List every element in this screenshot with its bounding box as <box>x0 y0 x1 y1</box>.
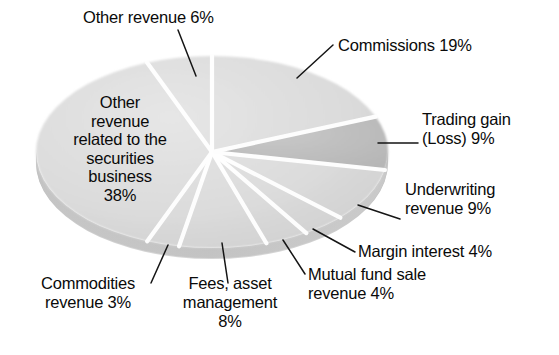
pie-chart-page: Other revenue related to the securities … <box>0 0 559 355</box>
slice-label-margin-interest: Margin interest 4% <box>358 242 558 261</box>
leader-underwriting <box>358 205 400 219</box>
leader-margin-interest <box>313 229 355 252</box>
slice-label-mutual-fund-sale: Mutual fund sale revenue 4% <box>308 265 478 303</box>
slice-label-underwriting-revenue: Underwriting revenue 9% <box>405 180 559 218</box>
slice-label-other-revenue-securities: Other revenue related to the securities … <box>44 93 196 204</box>
slice-label-fees-asset-management: Fees, asset management 8% <box>166 274 294 331</box>
slice-label-commodities-revenue: Commodities revenue 3% <box>22 274 154 312</box>
slice-label-trading-gain: Trading gain (Loss) 9% <box>422 110 558 148</box>
leader-commissions <box>297 45 333 78</box>
slice-label-other-revenue: Other revenue 6% <box>83 8 303 27</box>
slice-label-commissions: Commissions 19% <box>338 36 558 55</box>
